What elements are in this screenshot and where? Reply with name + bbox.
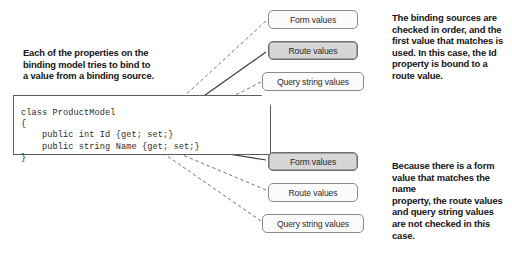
source-box-query-string-values-name[interactable]: Query string values <box>262 214 364 233</box>
note-top-right: The binding sources are checked in order… <box>392 12 510 82</box>
source-box-route-values-name[interactable]: Route values <box>268 183 358 202</box>
diagram-canvas: Each of the properties on the binding mo… <box>0 0 512 258</box>
source-box-route-values-id[interactable]: Route values <box>268 41 358 60</box>
source-box-form-values-id[interactable]: Form values <box>268 10 358 29</box>
source-box-query-string-values-id[interactable]: Query string values <box>262 72 364 91</box>
note-bottom-right: Because there is a form value that match… <box>392 160 512 241</box>
note-left: Each of the properties on the binding mo… <box>23 47 208 82</box>
code-block-text: class ProductModel { public int Id {get;… <box>21 108 200 165</box>
source-box-form-values-name[interactable]: Form values <box>268 152 358 171</box>
